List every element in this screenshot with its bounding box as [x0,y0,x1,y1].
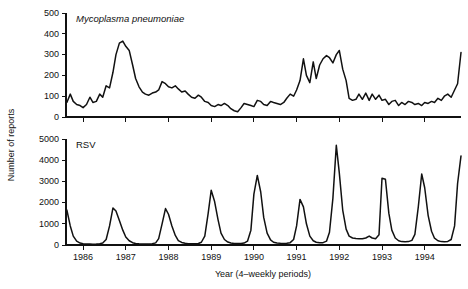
bot-y-tick-label: 3000 [39,176,59,186]
bottom-x-tick-marks [83,245,425,250]
x-tick-label: 1993 [372,252,392,262]
panel-title-rsv: RSV [76,139,96,150]
top-x-tick-marks [83,117,425,122]
panel-rsv: RSV 010002000300040005000 19861987198819… [39,134,461,262]
bot-y-tick-label: 4000 [39,155,59,165]
top-y-tick-marks [62,13,66,117]
top-y-tick-label: 400 [44,29,59,39]
bottom-x-tick-labels: 198619871988198919901991199219931994 [73,252,435,262]
top-y-tick-labels: 0100200300400500 [44,8,59,122]
bot-y-tick-label: 5000 [39,134,59,144]
x-tick-label: 1992 [329,252,349,262]
x-tick-label: 1991 [287,252,307,262]
y-axis-title: Number of reports [6,108,16,181]
top-y-tick-label: 100 [44,91,59,101]
rsv-series-line [67,145,461,244]
figure-container: Number of reports Mycoplasma pneumoniae … [0,0,468,289]
x-tick-label: 1994 [415,252,435,262]
panel-title-mycoplasma: Mycoplasma pneumoniae [76,13,184,24]
bot-y-tick-label: 1000 [39,219,59,229]
x-axis-title: Year (4–weekly periods) [215,269,311,279]
top-y-tick-label: 500 [44,8,59,18]
x-tick-label: 1990 [244,252,264,262]
bottom-y-tick-labels: 010002000300040005000 [39,134,59,250]
x-tick-label: 1989 [201,252,221,262]
panel-mycoplasma: Mycoplasma pneumoniae 0100200300400500 [44,8,461,122]
bot-y-tick-label: 2000 [39,197,59,207]
top-y-tick-label: 300 [44,49,59,59]
bot-y-tick-label: 0 [54,240,59,250]
x-tick-label: 1987 [116,252,136,262]
bottom-y-tick-marks [62,139,66,245]
top-y-tick-label: 0 [54,112,59,122]
mycoplasma-series-line [67,41,461,112]
x-tick-label: 1986 [73,252,93,262]
top-y-tick-label: 200 [44,70,59,80]
x-tick-label: 1988 [158,252,178,262]
two-panel-line-chart: Number of reports Mycoplasma pneumoniae … [0,0,468,289]
